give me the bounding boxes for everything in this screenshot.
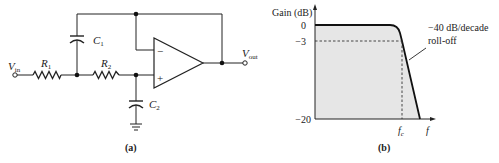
annotation-pointer	[409, 48, 426, 60]
frequency-response-chart	[313, 4, 436, 121]
resistor-r1	[33, 72, 61, 79]
y-axis-arrow-icon	[313, 4, 317, 10]
r1-label: R1	[40, 57, 52, 71]
annotation-line-2: roll-off	[428, 35, 457, 46]
x-axis-label: f	[426, 125, 430, 136]
r2-label: R2	[100, 57, 112, 71]
x-axis-arrow-icon	[430, 117, 436, 121]
junction-dot	[134, 12, 139, 17]
ytick-minus-3: −3	[295, 36, 306, 47]
fc-label: fc	[398, 125, 405, 138]
caption-a: (a)	[125, 142, 137, 154]
c2-label: C2	[149, 98, 160, 112]
annotation-line-1: −40 dB/decade	[428, 22, 489, 33]
caption-b: (b)	[378, 142, 390, 154]
ytick-0: 0	[301, 20, 306, 31]
vout-terminal	[243, 61, 247, 65]
c1-label: C1	[93, 34, 104, 48]
vin-label: Vin	[8, 60, 21, 74]
junction-dot	[220, 61, 225, 66]
y-axis-label: Gain (dB)	[272, 7, 312, 19]
plus-input-label: +	[157, 72, 163, 84]
junction-dot	[75, 73, 80, 78]
shaded-passband-area	[315, 25, 420, 119]
vout-label: Vout	[242, 47, 258, 61]
minus-input-label: −	[157, 45, 163, 57]
ground-icon	[130, 124, 142, 130]
resistor-r2	[93, 72, 119, 79]
circuit-diagram	[13, 14, 247, 130]
junction-dot	[134, 73, 139, 78]
ytick-minus-20: −20	[295, 114, 311, 125]
